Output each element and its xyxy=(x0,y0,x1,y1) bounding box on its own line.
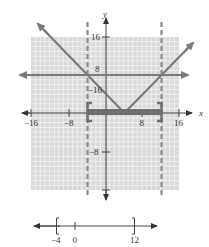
x-tick-label: −16 xyxy=(24,118,39,128)
x-axis-label: x xyxy=(198,108,203,118)
y-tick-label: 8 xyxy=(95,64,100,74)
number-line xyxy=(34,218,157,234)
number-line-label: 0 xyxy=(73,235,78,245)
y-tick-label: −16 xyxy=(88,85,103,95)
x-tick-label: 16 xyxy=(174,118,184,128)
graph-figure: −16 −8 8 16 16 8 −8 −16 x y −4 0 12 xyxy=(0,0,209,247)
y-tick-label: 16 xyxy=(91,32,101,42)
curve-left-arrow xyxy=(38,24,48,34)
y-axis-label: y xyxy=(102,9,107,19)
solution-interval-bar xyxy=(88,109,162,115)
x-tick-label: −8 xyxy=(64,118,74,128)
number-line-label: 12 xyxy=(130,235,139,245)
curve-right-arrow xyxy=(184,43,193,52)
y-tick-label: −8 xyxy=(89,147,99,157)
number-line-label: −4 xyxy=(51,235,61,245)
x-tick-label: 8 xyxy=(140,118,145,128)
